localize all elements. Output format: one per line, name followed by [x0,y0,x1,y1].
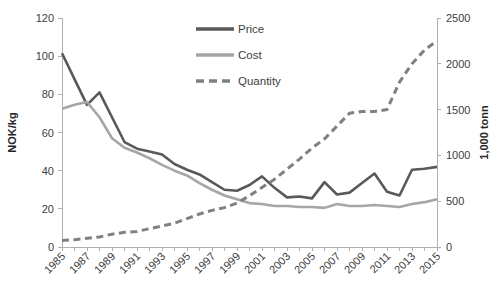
line-chart: 0204060801001200500100015002000250019851… [0,0,501,293]
x-axis-tick-label: 2013 [392,250,418,276]
x-axis-tick-label: 2011 [367,250,392,275]
x-axis-tick-label: 2015 [417,250,443,276]
legend-label-cost: Cost [238,49,262,61]
x-axis-tick-label: 1991 [117,250,143,276]
series-line-cost [62,102,437,208]
x-axis-tick-label: 2005 [292,250,318,276]
right-axis-title: 1,000 tonn [478,105,490,160]
legend-label-price: Price [238,23,264,35]
x-axis-tick-label: 1987 [67,250,93,276]
left-axis-title: NOK/kg [6,112,18,152]
x-axis-tick-label: 1997 [192,250,218,276]
x-axis-tick-label: 2001 [242,250,268,276]
right-axis-tick-label: 500 [446,195,464,207]
x-axis-tick-label: 1985 [42,250,68,276]
left-axis-tick-label: 80 [42,88,54,100]
right-axis-tick-label: 2500 [446,12,470,24]
legend-label-quantity: Quantity [238,75,281,87]
series-line-quantity [62,41,437,241]
chart-container: 0204060801001200500100015002000250019851… [0,0,501,293]
left-axis-tick-label: 60 [42,127,54,139]
right-axis-tick-label: 1000 [446,149,470,161]
left-axis-tick-label: 40 [42,165,54,177]
x-axis-tick-label: 1995 [167,250,193,276]
x-axis-tick-label: 1993 [142,250,168,276]
x-axis-tick-label: 2003 [267,250,293,276]
left-axis-tick-label: 20 [42,203,54,215]
x-axis-tick-label: 2009 [342,250,368,276]
x-axis-tick-label: 2007 [317,250,343,276]
right-axis-tick-label: 1500 [446,104,470,116]
x-axis-tick-label: 1989 [92,250,118,276]
left-axis-tick-label: 100 [36,50,54,62]
left-axis-tick-label: 120 [36,12,54,24]
x-axis-tick-label: 1999 [217,250,243,276]
left-axis-tick-label: 0 [48,241,54,253]
right-axis-tick-label: 2000 [446,58,470,70]
right-axis-tick-label: 0 [446,241,452,253]
